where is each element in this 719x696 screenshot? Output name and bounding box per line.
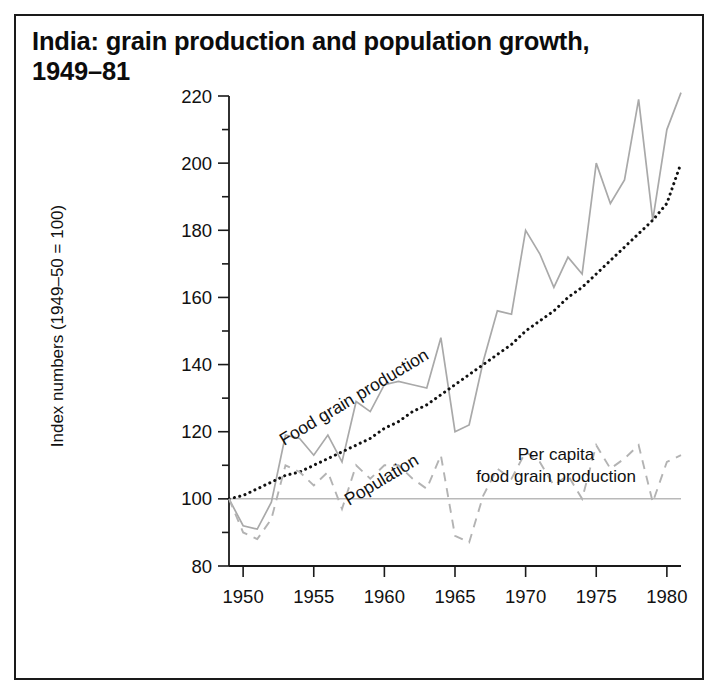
y-tick-label: 180 (181, 220, 212, 241)
x-tick-label: 1955 (293, 586, 334, 607)
series-line-dashed (229, 445, 681, 542)
y-tick-label: 100 (181, 488, 212, 509)
x-tick-label: 1950 (223, 586, 264, 607)
population-label: Population (341, 450, 422, 510)
y-tick-label: 220 (181, 86, 212, 107)
x-tick-label: 1960 (364, 586, 405, 607)
chart-canvas: 8010012014016018020022019501955196019651… (16, 16, 704, 680)
x-tick-label: 1975 (576, 586, 617, 607)
series-line-solid (229, 93, 681, 529)
food-grain-production-label: Food grain production (276, 345, 432, 450)
per-capita-label-line2: food grain production (476, 467, 636, 486)
y-tick-label: 120 (181, 421, 212, 442)
x-tick-label: 1980 (646, 586, 687, 607)
x-tick-label: 1965 (434, 586, 475, 607)
series-line-dotted (229, 163, 681, 499)
per-capita-label-line1: Per capita (518, 445, 595, 464)
figure-panel: India: grain production and population g… (14, 14, 704, 680)
annotation-group: Food grain productionPopulationPer capit… (276, 345, 636, 510)
y-tick-label: 200 (181, 153, 212, 174)
y-tick-label: 140 (181, 354, 212, 375)
y-tick-label: 80 (191, 556, 212, 577)
x-tick-label: 1970 (505, 586, 546, 607)
y-tick-label: 160 (181, 287, 212, 308)
